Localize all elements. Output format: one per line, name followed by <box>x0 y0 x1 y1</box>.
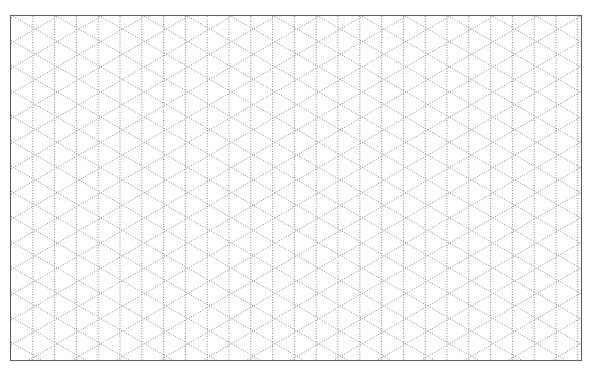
grid-diagonal-down <box>11 16 582 119</box>
grid-diagonal-up <box>11 16 582 345</box>
grid-diagonal-down <box>11 116 582 361</box>
page-title: Isometric dot grid paper <box>0 0 1 1</box>
grid-diagonal-up <box>11 40 582 361</box>
grid-diagonal-up <box>11 16 582 144</box>
grid-diagonal-up <box>11 292 582 361</box>
grid-diagonal-up <box>11 216 582 361</box>
grid-diagonal-up <box>11 16 582 295</box>
grid-diagonal-down <box>11 16 582 219</box>
grid-diagonal-down <box>11 292 582 361</box>
grid-diagonal-up <box>11 16 582 320</box>
grid-diagonal-up <box>11 16 582 94</box>
grid-diagonal-down <box>11 16 582 270</box>
grid-diagonal-down <box>11 16 582 295</box>
grid-diagonal-up <box>11 16 582 18</box>
grid-diagonal-up <box>11 16 582 169</box>
grid-diagonal-down <box>11 317 582 361</box>
grid-diagonal-down <box>11 16 582 94</box>
grid-diagonal-down <box>11 40 582 361</box>
grid-diagonal-down <box>11 191 582 361</box>
isometric-grid-frame <box>10 15 582 361</box>
isometric-grid <box>11 16 582 361</box>
grid-diagonal-up <box>11 342 582 361</box>
grid-diagonal-down <box>11 267 582 361</box>
grid-diagonal-down <box>11 216 582 361</box>
grid-diagonal-down <box>11 16 582 68</box>
grid-diagonal-down <box>11 16 582 320</box>
grid-diagonal-down <box>11 16 582 144</box>
grid-diagonal-up <box>11 116 582 361</box>
grid-diagonal-down <box>11 342 582 361</box>
grid-diagonal-up <box>11 141 582 361</box>
grid-diagonal-up <box>11 16 582 219</box>
grid-diagonal-up <box>11 317 582 361</box>
grid-diagonal-down <box>11 16 582 194</box>
grid-diagonal-down <box>11 242 582 361</box>
grid-diagonal-up <box>11 16 582 194</box>
grid-diagonal-up <box>11 242 582 361</box>
grid-diagonal-down <box>11 16 582 18</box>
page: Isometric dot grid paper <box>0 0 593 368</box>
grid-diagonal-up <box>11 191 582 361</box>
grid-diagonal-up <box>11 16 582 245</box>
grid-diagonal-down <box>11 141 582 361</box>
grid-diagonal-up <box>11 16 582 68</box>
grid-diagonal-down <box>11 16 582 169</box>
grid-diagonal-up <box>11 16 582 119</box>
grid-diagonal-down <box>11 16 582 245</box>
grid-diagonal-up <box>11 267 582 361</box>
grid-diagonal-up <box>11 16 582 270</box>
